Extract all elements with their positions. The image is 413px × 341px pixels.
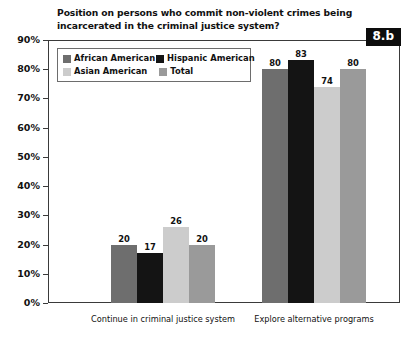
- bar: [189, 245, 215, 303]
- y-axis-tick-mark: [43, 303, 48, 304]
- legend-label: Hispanic American: [167, 54, 255, 63]
- y-axis-tick-mark: [43, 69, 48, 70]
- legend-row: Asian American Total: [63, 65, 246, 78]
- bar: [288, 60, 314, 303]
- y-axis-tick-mark: [43, 274, 48, 275]
- y-axis-tick-label: 80%: [0, 63, 40, 74]
- y-axis-tick-mark: [43, 186, 48, 187]
- bar-value-label: 20: [189, 234, 215, 244]
- y-axis-tick-mark: [43, 245, 48, 246]
- legend-entry-african-american: African American: [63, 52, 156, 65]
- chart-figure: Position on persons who commit non-viole…: [0, 0, 413, 341]
- bar-value-label: 83: [288, 49, 314, 59]
- bar: [262, 69, 288, 303]
- y-axis-tick-label: 40%: [0, 180, 40, 191]
- y-axis-tick-mark: [43, 40, 48, 41]
- y-axis-tick-label: 60%: [0, 122, 40, 133]
- bar-value-label: 80: [340, 58, 366, 68]
- y-axis-tick-mark: [43, 215, 48, 216]
- bar: [137, 253, 163, 303]
- legend-row: African American Hispanic American: [63, 52, 246, 65]
- y-axis-tick-label: 50%: [0, 151, 40, 162]
- chart-legend: African American Hispanic American Asian…: [57, 48, 251, 82]
- category-label: Explore alternative programs: [224, 314, 404, 324]
- legend-entry-asian-american: Asian American: [63, 65, 159, 78]
- bar: [314, 87, 340, 303]
- bar: [163, 227, 189, 303]
- bar: [111, 245, 137, 303]
- legend-swatch-icon: [63, 55, 71, 63]
- y-axis-tick-label: 20%: [0, 239, 40, 250]
- legend-swatch-icon: [156, 55, 164, 63]
- legend-swatch-icon: [159, 68, 167, 76]
- legend-label: African American: [74, 54, 155, 63]
- legend-entry-total: Total: [159, 65, 246, 78]
- y-axis-tick-label: 70%: [0, 92, 40, 103]
- chart-title: Position on persons who commit non-viole…: [57, 6, 357, 32]
- y-axis-tick-mark: [43, 157, 48, 158]
- y-axis-tick-label: 90%: [0, 34, 40, 45]
- legend-entry-hispanic-american: Hispanic American: [156, 52, 246, 65]
- y-axis-tick-mark: [43, 128, 48, 129]
- bar-value-label: 26: [163, 216, 189, 226]
- legend-label: Asian American: [74, 67, 147, 76]
- y-axis-tick-label: 10%: [0, 268, 40, 279]
- bar-value-label: 17: [137, 242, 163, 252]
- figure-number-badge: 8.b: [366, 28, 402, 46]
- legend-label: Total: [170, 67, 193, 76]
- bar: [340, 69, 366, 303]
- y-axis-tick-mark: [43, 98, 48, 99]
- bar-value-label: 20: [111, 234, 137, 244]
- y-axis-tick-label: 0%: [0, 297, 40, 308]
- bar-value-label: 80: [262, 58, 288, 68]
- legend-swatch-icon: [63, 68, 71, 76]
- bar-value-label: 74: [314, 76, 340, 86]
- y-axis-tick-label: 30%: [0, 209, 40, 220]
